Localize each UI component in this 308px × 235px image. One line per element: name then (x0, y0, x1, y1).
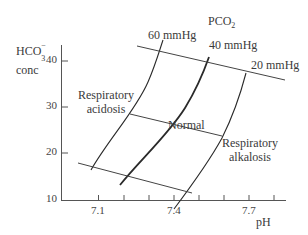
y-tick-label-30: 30 (46, 99, 57, 111)
alkalosis-line2: alkalosis (220, 150, 280, 164)
y-tick-label-20: 20 (46, 145, 57, 157)
x-tick-label-7.1: 7.1 (91, 204, 105, 216)
isobar-label-20: 20 mmHg (251, 58, 299, 72)
respiratory-alkalosis-label: Respiratory alkalosis (220, 136, 280, 164)
alkalosis-line1: Respiratory (220, 136, 280, 150)
y-tick-label-10: 10 (46, 192, 57, 204)
pco2-title-sub: 2 (231, 21, 235, 30)
y-axis-title: HCO−3 conc (16, 44, 45, 77)
y-axis-title-text: HCO (16, 44, 41, 58)
pco2-title-text: PCO (208, 14, 231, 28)
x-tick-label-7.4: 7.4 (167, 204, 181, 216)
respiratory-acidosis-label: Respiratory acidosis (78, 88, 134, 116)
x-axis-title: pH (256, 215, 271, 229)
normal-label: Normal (168, 118, 205, 132)
acidosis-line2: acidosis (78, 102, 134, 116)
isobar-label-40: 40 mmHg (209, 38, 257, 52)
y-axis-title-sub: 3 (41, 54, 45, 63)
acidosis-line1: Respiratory (78, 88, 134, 102)
x-tick-label-7.7: 7.7 (242, 204, 256, 216)
pco2-title: PCO2 (208, 14, 235, 33)
y-axis-title-sup: − (41, 39, 46, 53)
isobar-label-60: 60 mmHg (148, 28, 196, 42)
y-axis-title-line2: conc (16, 63, 39, 77)
y-tick-label-40: 40 (46, 53, 57, 65)
